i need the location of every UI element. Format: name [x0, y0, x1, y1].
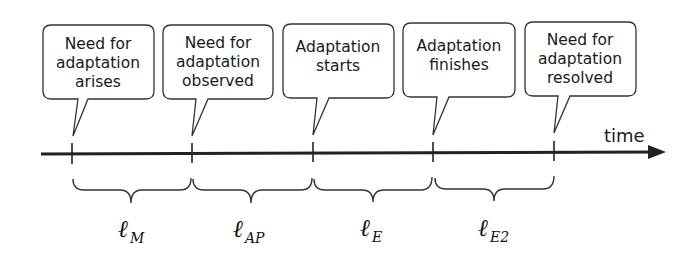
event-label-line: arises [75, 73, 121, 91]
brace-l-e [314, 177, 432, 202]
event-label-line: Adaptation [417, 37, 502, 55]
interval-symbol: ℓ [118, 215, 128, 243]
interval-label-l-m: ℓ M [118, 215, 145, 246]
interval-label-l-e2: ℓ E2 [478, 214, 509, 245]
event-label-line: Adaptation [296, 38, 381, 56]
interval-label-l-e: ℓ E [360, 214, 382, 245]
event-label-line: finishes [429, 56, 488, 74]
event-label-line: Need for [547, 31, 614, 49]
event-label-line: adaptation [538, 50, 622, 68]
interval-subscript: E2 [489, 229, 509, 245]
interval-symbol: ℓ [360, 214, 370, 242]
time-axis: time [41, 125, 666, 164]
interval-subscript: E [371, 229, 382, 245]
brace-l-ap [193, 178, 312, 203]
interval-label-l-ap: ℓ AP [233, 215, 265, 246]
event-callout-adaptation-starts: Adaptation starts [283, 24, 394, 135]
event-callout-need-arises: Need for adaptation arises [43, 25, 154, 136]
brace-l-e2 [435, 176, 554, 201]
interval-symbol: ℓ [233, 215, 243, 243]
event-callout-need-observed: Need for adaptation observed [163, 25, 273, 136]
event-label-line: observed [182, 72, 254, 90]
interval-subscript: M [129, 230, 145, 246]
event-label-line: adaptation [56, 54, 140, 72]
event-callout-adaptation-finishes: Adaptation finishes [403, 23, 515, 135]
event-label-line: Need for [185, 34, 252, 52]
event-label-line: starts [316, 57, 360, 75]
interval-symbol: ℓ [478, 214, 488, 242]
arrowhead-icon [648, 145, 666, 159]
axis-line [41, 152, 655, 154]
axis-label-time: time [604, 125, 645, 146]
event-label-line: resolved [547, 69, 613, 87]
timeline-diagram: Need for adaptation arises Need for adap… [0, 0, 700, 261]
event-label-line: Need for [65, 35, 132, 53]
interval-braces [73, 176, 554, 203]
event-label-line: adaptation [176, 53, 260, 71]
brace-l-m [73, 178, 191, 203]
interval-subscript: AP [243, 230, 265, 246]
event-callout-need-resolved: Need for adaptation resolved [525, 22, 636, 133]
